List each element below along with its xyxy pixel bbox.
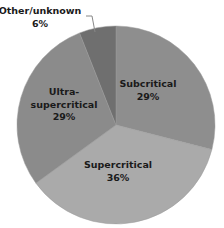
pie-chart: Subcritical29%Supercritical36%Ultra-supe…	[0, 0, 224, 228]
slice-label-other-unknown: Other/unknown6%	[0, 5, 82, 29]
pie-slices	[17, 26, 215, 224]
